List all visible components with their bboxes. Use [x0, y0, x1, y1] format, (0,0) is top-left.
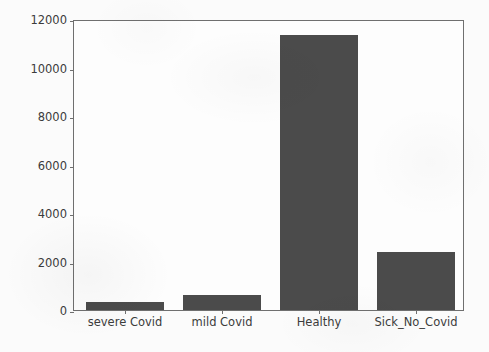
y-tick-mark [70, 70, 74, 71]
bar-mild-covid[interactable] [183, 295, 261, 310]
x-tick-mark [125, 310, 126, 314]
x-tick-mark [222, 310, 223, 314]
y-tick-label: 12000 [30, 15, 67, 27]
x-tick-label: severe Covid [88, 317, 163, 329]
bar-healthy[interactable] [280, 35, 358, 310]
y-tick-mark [70, 264, 74, 265]
y-tick-mark [70, 118, 74, 119]
y-tick-mark [70, 215, 74, 216]
y-tick-label: 0 [60, 306, 67, 318]
x-tick-label: mild Covid [192, 317, 253, 329]
bar-chart-figure: 0 2000 4000 6000 8000 10000 12000 [0, 0, 489, 352]
x-tick-mark [319, 310, 320, 314]
y-tick-label: 8000 [38, 112, 67, 124]
bar-severe-covid[interactable] [86, 302, 164, 310]
bar-sick-no-covid[interactable] [377, 252, 455, 310]
y-tick-label: 4000 [38, 209, 67, 221]
y-tick-label: 2000 [38, 258, 67, 270]
x-tick-mark [416, 310, 417, 314]
plot-area: 0 2000 4000 6000 8000 10000 12000 [73, 20, 464, 311]
y-tick-mark [70, 167, 74, 168]
x-tick-label: Sick_No_Covid [375, 317, 458, 329]
y-tick-label: 6000 [38, 161, 67, 173]
y-tick-mark [70, 312, 74, 313]
x-tick-label: Healthy [297, 317, 342, 329]
y-tick-label: 10000 [30, 64, 67, 76]
y-tick-mark [70, 21, 74, 22]
